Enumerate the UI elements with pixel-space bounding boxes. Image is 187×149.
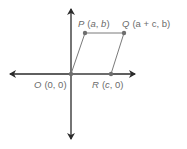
parallelogram-OPQR bbox=[71, 33, 124, 74]
label-R: R(c, 0) bbox=[92, 79, 124, 90]
point-O bbox=[69, 72, 73, 76]
label-Q: Q(a + c, b) bbox=[122, 18, 170, 29]
label-O: O(0, 0) bbox=[34, 79, 67, 90]
label-P: P(a, b) bbox=[78, 18, 110, 29]
coordinate-plane: P(a, b) Q(a + c, b) O(0, 0) R(c, 0) bbox=[0, 0, 187, 149]
point-Q bbox=[122, 31, 126, 35]
point-P bbox=[83, 31, 87, 35]
point-R bbox=[109, 72, 113, 76]
